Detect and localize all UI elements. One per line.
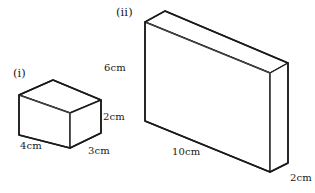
figure-ii-height-label: 6cm [104, 63, 126, 73]
figure-ii-depth-label: 2cm [290, 173, 312, 183]
cuboids-illustration [0, 0, 315, 193]
figure-i-height-label: 2cm [103, 112, 125, 122]
figure-ii-width-label: 10cm [172, 147, 200, 157]
figure-ii-tag: (ii) [116, 7, 133, 19]
diagram-canvas: (i) 2cm 4cm 3cm (ii) 6cm 10cm 2cm [0, 0, 315, 193]
large-cuboid-shape [145, 11, 288, 172]
small-cuboid-shape [19, 80, 101, 148]
figure-i-tag: (i) [13, 68, 26, 80]
large-cuboid-right-face [270, 63, 288, 172]
figure-i-width-label: 4cm [20, 141, 42, 151]
figure-i-depth-label: 3cm [88, 146, 110, 156]
